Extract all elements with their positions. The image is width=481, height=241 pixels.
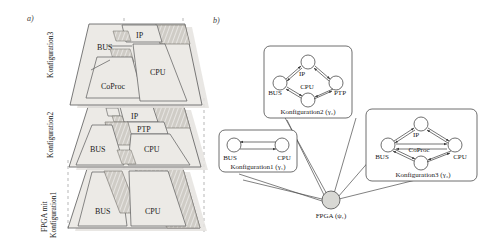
caption-konfiguration1: Konfiguration1 (γ₁) bbox=[230, 163, 286, 171]
layer-konfiguration1: BUS CPU bbox=[68, 169, 207, 231]
node-ip-k3 bbox=[414, 117, 428, 131]
node-label-ptp-k2: PTP bbox=[334, 89, 346, 97]
fpga-root-label: FPGA (ψ₁) bbox=[316, 212, 347, 220]
graph-konfiguration3: IP BUS CPU CoProc Konfiguration3 (γ₃) bbox=[366, 109, 477, 181]
node-label-ip-k2: IP bbox=[299, 70, 305, 78]
node-label-coproc-k3: CoProc bbox=[409, 146, 430, 154]
node-label-cpu-k2: CPU bbox=[300, 83, 314, 91]
node-ip-k2 bbox=[301, 55, 315, 69]
graph-konfiguration1: BUS CPU Konfiguration1 (γ₁) bbox=[219, 130, 297, 172]
node-bus-k3 bbox=[381, 138, 395, 152]
fpga-root-node bbox=[322, 191, 340, 209]
block-label-coproc-l3: CoProc bbox=[101, 82, 125, 91]
node-label-cpu-k3: CPU bbox=[453, 153, 467, 161]
node-bus-k1 bbox=[227, 138, 241, 152]
node-label-bus-k3: BUS bbox=[375, 153, 389, 161]
node-cpu-k1 bbox=[275, 138, 289, 152]
layer-konfiguration3: IP BUS CoProc CPU bbox=[70, 24, 209, 108]
caption-konfiguration3: Konfiguration3 (γ₃) bbox=[395, 171, 451, 179]
block-label-ip-l3: IP bbox=[136, 31, 144, 40]
block-label-cpu-l1: CPU bbox=[145, 207, 161, 216]
node-coproc-k3 bbox=[414, 156, 428, 170]
node-label-bus-k1: BUS bbox=[223, 154, 237, 162]
block-label-bus-l3: BUS bbox=[97, 43, 113, 52]
panel-b-canvas: IP BUS PTP CPU Konfiguration2 (γ₂) BUS C… bbox=[219, 46, 477, 220]
block-label-ptp-l2: PTP bbox=[137, 125, 151, 134]
node-label-cpu-k1: CPU bbox=[277, 154, 291, 162]
block-label-cpu-l3: CPU bbox=[150, 68, 166, 77]
node-cpu-k2 bbox=[301, 93, 315, 107]
node-bus-k2 bbox=[273, 76, 287, 90]
panel-a-canvas: BUS CPU IP PTP BUS CPU bbox=[0, 0, 481, 241]
block-label-bus-l2: BUS bbox=[90, 145, 106, 154]
graph-konfiguration2: IP BUS PTP CPU Konfiguration2 (γ₂) bbox=[264, 46, 352, 118]
node-label-bus-k2: BUS bbox=[268, 89, 282, 97]
node-cpu-k3 bbox=[448, 138, 462, 152]
block-label-cpu-l2: CPU bbox=[144, 145, 160, 154]
node-ptp-k2 bbox=[329, 76, 343, 90]
block-label-ip-l2: IP bbox=[131, 112, 139, 121]
block-label-bus-l1: BUS bbox=[95, 207, 111, 216]
caption-konfiguration2: Konfiguration2 (γ₂) bbox=[280, 108, 336, 116]
figure-root: a) b) Konfiguration3 Konfiguration2 FPGA… bbox=[0, 0, 481, 241]
layer-konfiguration2: IP PTP BUS CPU bbox=[69, 107, 208, 170]
node-label-ip-k3: IP bbox=[413, 131, 419, 139]
